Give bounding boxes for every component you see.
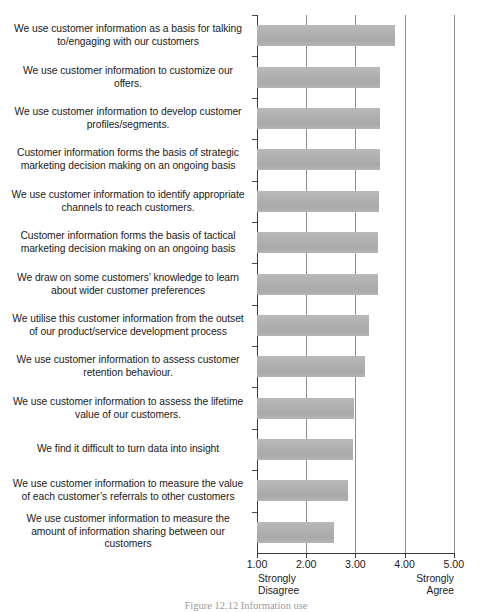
- category-tick: [252, 470, 257, 471]
- category-label: We draw on some customers’ knowledge to …: [8, 272, 248, 297]
- category-tick: [252, 305, 257, 306]
- bar: [257, 67, 380, 88]
- bar: [257, 398, 354, 419]
- category-tick: [252, 512, 257, 513]
- category-label: We use customer information as a basis f…: [8, 23, 248, 48]
- category-tick: [252, 56, 257, 57]
- scale-anchor-low-line2: Disagree: [258, 585, 338, 597]
- category-tick: [252, 222, 257, 223]
- category-label: We find it difficult to turn data into i…: [8, 443, 248, 456]
- bar: [257, 315, 369, 336]
- category-tick: [252, 15, 257, 16]
- category-label: We use customer information to customize…: [8, 65, 248, 90]
- scale-anchor-high: StronglyAgree: [404, 573, 454, 598]
- category-label: Customer information forms the basis of …: [8, 230, 248, 255]
- bar: [257, 480, 348, 501]
- category-tick: [252, 181, 257, 182]
- gridline-4.00: [405, 15, 406, 553]
- category-tick: [252, 263, 257, 264]
- category-tick: [252, 139, 257, 140]
- scale-anchor-low: StronglyDisagree: [258, 573, 338, 598]
- figure-caption: Figure 12.12 Information use: [0, 600, 492, 611]
- scale-anchor-low-line1: Strongly: [258, 573, 338, 585]
- category-label: Customer information forms the basis of …: [8, 147, 248, 172]
- category-label: We use customer information to develop c…: [8, 106, 248, 131]
- bar: [257, 232, 378, 253]
- bar: [257, 108, 380, 129]
- scale-anchor-high-line2: Agree: [404, 585, 454, 597]
- category-label: We use customer information to identify …: [8, 189, 248, 214]
- bar: [257, 149, 380, 170]
- category-tick: [252, 429, 257, 430]
- scale-anchor-high-line1: Strongly: [404, 573, 454, 585]
- bar: [257, 356, 365, 377]
- bar: [257, 274, 378, 295]
- bar-chart-plot-area: We use customer information as a basis f…: [0, 0, 492, 560]
- category-label: We use customer information to measure t…: [8, 478, 248, 503]
- bar: [257, 522, 334, 543]
- bar: [257, 25, 395, 46]
- figure-container: We use customer information as a basis f…: [0, 0, 492, 612]
- bar: [257, 439, 353, 460]
- category-label: We use customer information to assess cu…: [8, 354, 248, 379]
- category-tick: [252, 98, 257, 99]
- x-axis-label-5.00: 5.00: [424, 558, 484, 570]
- category-tick: [252, 346, 257, 347]
- category-label: We utilise this customer information fro…: [8, 313, 248, 338]
- category-label: We use customer information to measure t…: [8, 513, 248, 551]
- category-label: We use customer information to assess th…: [8, 396, 248, 421]
- category-tick: [252, 387, 257, 388]
- gridline-5.00: [454, 15, 455, 553]
- bar: [257, 191, 379, 212]
